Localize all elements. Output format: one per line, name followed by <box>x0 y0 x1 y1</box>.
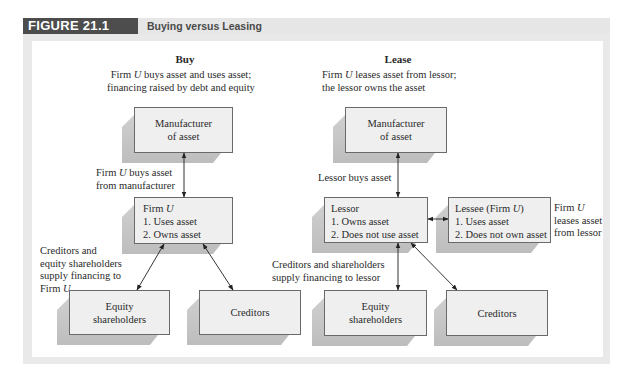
lessor-creditors-arrow <box>411 243 457 290</box>
buy-firm-creditors-arrow <box>203 244 233 290</box>
buy-firm-equity-arrow <box>137 244 164 290</box>
diagram-arrows <box>0 0 634 381</box>
